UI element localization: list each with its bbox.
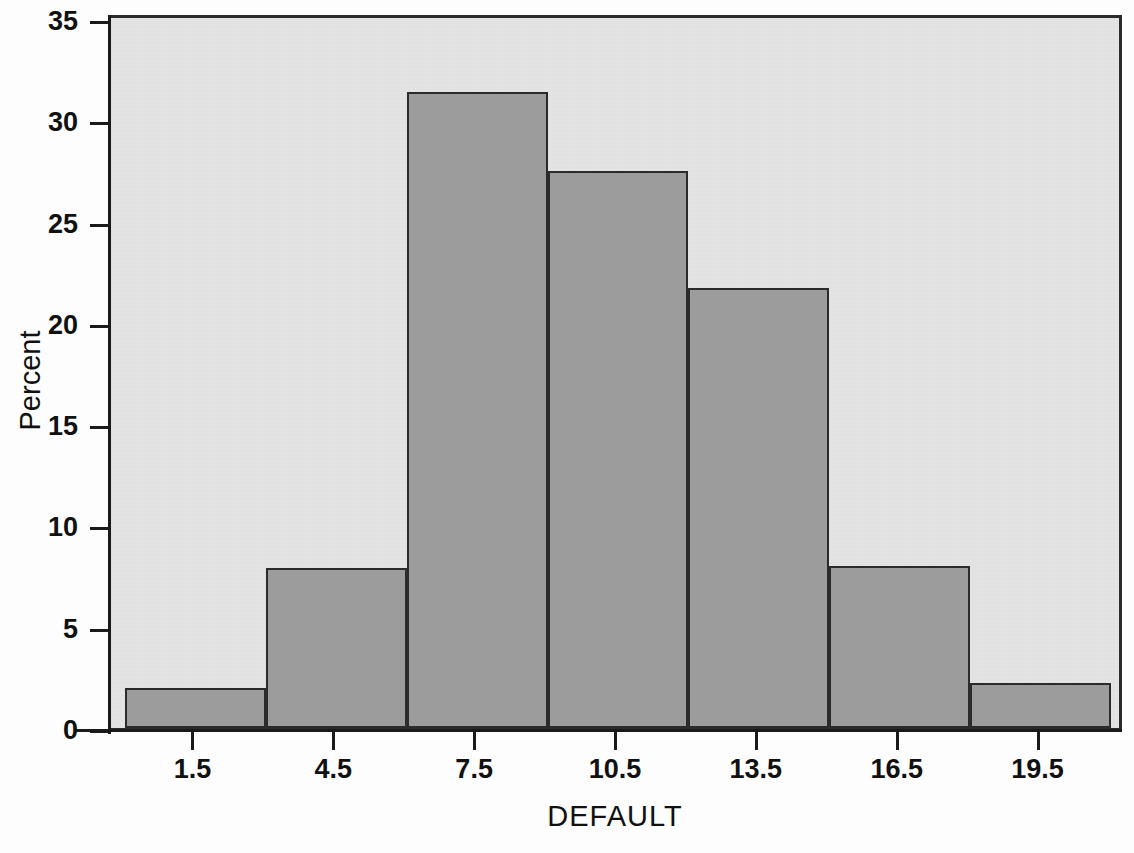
x-tick-label: 1.5 [132,756,252,783]
y-tick-mark [90,730,108,733]
histogram-bar [688,288,829,728]
x-tick-label: 4.5 [273,756,393,783]
x-tick-mark [332,732,335,750]
y-tick-mark [90,122,108,125]
y-tick-label: 0 [22,717,78,744]
y-tick-mark [90,629,108,632]
y-tick-label: 5 [22,616,78,643]
y-tick-mark [90,224,108,227]
x-axis-title: DEFAULT [495,802,735,831]
y-tick-mark [90,21,108,24]
histogram-bar [548,171,689,728]
x-tick-mark [896,732,899,750]
x-tick-label: 16.5 [837,756,957,783]
y-axis-title: Percent [16,301,45,461]
histogram-bar [125,688,266,729]
x-tick-mark [614,732,617,750]
y-tick-label: 25 [22,211,78,238]
y-tick-mark [90,527,108,530]
histogram-figure: 35302520151050 1.54.57.510.513.516.519.5… [0,0,1134,853]
x-tick-mark [473,732,476,750]
x-tick-label: 10.5 [555,756,675,783]
histogram-bar [407,92,548,728]
x-tick-mark [755,732,758,750]
y-axis-line [108,15,111,734]
y-tick-mark [90,426,108,429]
x-axis-line [75,729,1122,732]
x-tick-label: 19.5 [978,756,1098,783]
plot-area [108,15,1122,731]
x-tick-label: 13.5 [696,756,816,783]
x-tick-mark [191,732,194,750]
x-tick-label: 7.5 [414,756,534,783]
y-tick-label: 10 [22,514,78,541]
y-tick-mark [90,325,108,328]
plot-inner [111,18,1119,728]
histogram-bar [970,683,1111,728]
y-tick-label: 35 [22,8,78,35]
x-tick-mark [1037,732,1040,750]
histogram-bar [266,568,407,728]
y-tick-label: 30 [22,109,78,136]
histogram-bar [829,566,970,728]
